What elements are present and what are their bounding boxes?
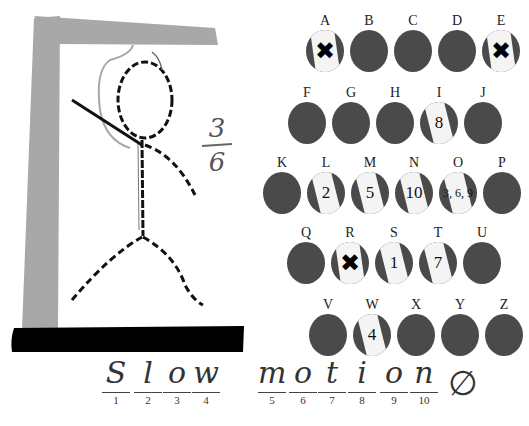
letter-i[interactable]: I8 <box>419 84 459 148</box>
slot-underline <box>192 392 220 393</box>
letter-bubble-hit[interactable]: 7 <box>419 242 457 284</box>
answer-slot: m5 <box>258 356 286 407</box>
letter-c[interactable]: C <box>393 12 433 76</box>
letter-d[interactable]: D <box>437 12 477 76</box>
letter-label: U <box>477 224 487 242</box>
letter-position: 10 <box>406 185 423 201</box>
letter-position: 3, 6, 9 <box>443 187 473 199</box>
letter-label: V <box>323 296 333 314</box>
letter-bubble-unused[interactable] <box>463 242 501 284</box>
slot-underline <box>410 392 438 393</box>
slot-underline <box>102 392 130 393</box>
wrong-guess-counter: 3 6 <box>200 115 234 175</box>
slot-number: 10 <box>410 394 438 407</box>
letter-bubble-hit[interactable]: 5 <box>351 172 389 214</box>
answer-slot: l2 <box>134 356 162 407</box>
letter-label: C <box>408 12 417 30</box>
letter-position: 4 <box>368 327 377 343</box>
letter-f[interactable]: F <box>287 84 327 148</box>
slot-letter: S <box>102 356 130 390</box>
letter-bubble-hit[interactable]: 8 <box>420 102 458 144</box>
answer-slot: o3 <box>163 356 191 407</box>
letter-a[interactable]: A✖ <box>305 12 345 76</box>
slot-underline <box>134 392 162 393</box>
stickman-right-leg <box>143 237 203 305</box>
letter-label: F <box>303 84 311 102</box>
letter-w[interactable]: W4 <box>352 296 392 360</box>
letter-bubble-miss[interactable]: ✖ <box>331 242 369 284</box>
letter-label: W <box>365 296 378 314</box>
letter-label: N <box>409 154 419 172</box>
letter-bubble-unused[interactable] <box>309 314 347 356</box>
letter-label: R <box>345 224 354 242</box>
letter-j[interactable]: J <box>463 84 503 148</box>
letter-position: 1 <box>390 255 399 271</box>
letter-bubble-unused[interactable] <box>263 172 301 214</box>
letter-label: Q <box>301 224 311 242</box>
letter-position: 8 <box>435 115 444 131</box>
letter-bubble-hit[interactable]: 3, 6, 9 <box>439 172 477 214</box>
slot-number: 9 <box>380 394 408 407</box>
letter-position: 5 <box>366 185 375 201</box>
letter-bubble-unused[interactable] <box>350 30 388 72</box>
letter-m[interactable]: M5 <box>350 154 390 218</box>
answer-slot: i8 <box>348 356 376 407</box>
letter-bubble-unused[interactable] <box>483 172 521 214</box>
letter-bubble-unused[interactable] <box>332 102 370 144</box>
letter-e[interactable]: E✖ <box>481 12 521 76</box>
letter-bubble-unused[interactable] <box>441 314 479 356</box>
letter-o[interactable]: O3, 6, 9 <box>438 154 478 218</box>
letter-s[interactable]: S1 <box>374 224 414 288</box>
letter-g[interactable]: G <box>331 84 371 148</box>
slot-letter: m <box>258 356 286 390</box>
gallows-base <box>11 326 244 352</box>
letter-position: 7 <box>434 255 443 271</box>
empty-set-mark: ∅ <box>448 366 478 400</box>
letter-q[interactable]: Q <box>286 224 326 288</box>
wrong-count: 3 <box>200 115 234 141</box>
stickman-body <box>142 140 143 236</box>
letter-u[interactable]: U <box>462 224 502 288</box>
letter-label: Y <box>455 296 465 314</box>
letter-p[interactable]: P <box>482 154 522 218</box>
slot-number: 6 <box>289 394 317 407</box>
letter-bubble-hit[interactable]: 10 <box>395 172 433 214</box>
letter-bubble-unused[interactable] <box>288 102 326 144</box>
letter-v[interactable]: V <box>308 296 348 360</box>
letter-bubble-unused[interactable] <box>464 102 502 144</box>
letter-bubble-unused[interactable] <box>485 314 523 356</box>
letter-bubble-miss[interactable]: ✖ <box>306 30 344 72</box>
letter-bubble-unused[interactable] <box>397 314 435 356</box>
letter-bubble-unused[interactable] <box>394 30 432 72</box>
letter-n[interactable]: N10 <box>394 154 434 218</box>
letter-bubble-unused[interactable] <box>376 102 414 144</box>
letter-t[interactable]: T7 <box>418 224 458 288</box>
letter-k[interactable]: K <box>262 154 302 218</box>
letter-b[interactable]: B <box>349 12 389 76</box>
letter-label: T <box>434 224 443 242</box>
letter-l[interactable]: L2 <box>306 154 346 218</box>
hangman-board: 3 6 A✖BCDE✖FGHI8JKL2M5N10O3, 6, 9PQR✖S1T… <box>0 0 529 426</box>
letter-bubble-unused[interactable] <box>438 30 476 72</box>
slot-letter: o <box>289 356 317 390</box>
slot-underline <box>289 392 317 393</box>
letter-label: M <box>364 154 376 172</box>
gallows-beam <box>34 16 218 45</box>
slot-letter: w <box>192 356 220 390</box>
slot-number: 8 <box>348 394 376 407</box>
letter-y[interactable]: Y <box>440 296 480 360</box>
letter-bubble-unused[interactable] <box>287 242 325 284</box>
slot-number: 1 <box>102 394 130 407</box>
letter-bubble-hit[interactable]: 1 <box>375 242 413 284</box>
letter-r[interactable]: R✖ <box>330 224 370 288</box>
slot-underline <box>163 392 191 393</box>
letter-h[interactable]: H <box>375 84 415 148</box>
letter-x[interactable]: X <box>396 296 436 360</box>
answer-slot: o6 <box>289 356 317 407</box>
slot-underline <box>258 392 286 393</box>
gallows-post <box>22 16 60 330</box>
letter-z[interactable]: Z <box>484 296 524 360</box>
letter-bubble-hit[interactable]: 4 <box>353 314 391 356</box>
letter-bubble-miss[interactable]: ✖ <box>482 30 520 72</box>
letter-bubble-hit[interactable]: 2 <box>307 172 345 214</box>
